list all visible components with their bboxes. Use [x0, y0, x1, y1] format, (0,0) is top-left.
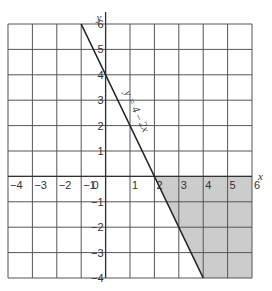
x-tick-label: −3	[34, 179, 47, 191]
y-tick-label: 6	[97, 18, 103, 30]
x-tick-label: −2	[59, 179, 72, 191]
x-tick-label: 3	[181, 179, 187, 191]
x-tick-label: 2	[156, 179, 162, 191]
y-tick-label: 5	[97, 43, 103, 55]
y-tick-label: 3	[97, 94, 103, 106]
y-tick-label: −2	[91, 221, 104, 233]
y-tick-label: −4	[91, 272, 104, 284]
x-tick-label: 0	[93, 179, 99, 191]
graph: xy y = 4 – 2x −4−3−2−10123456654321−1−2−…	[0, 0, 272, 291]
x-tick-label: 1	[132, 179, 138, 191]
y-tick-label: −3	[91, 247, 104, 259]
y-tick-label: 4	[97, 69, 103, 81]
x-tick-label: −4	[10, 179, 23, 191]
y-tick-label: 1	[97, 145, 103, 157]
y-tick-label: 2	[97, 120, 103, 132]
x-tick-label: 5	[230, 179, 236, 191]
y-tick-label: −1	[91, 196, 104, 208]
x-tick-label: 6	[254, 179, 260, 191]
line-equation-label: y = 4 – 2x	[122, 87, 153, 133]
x-tick-label: 4	[205, 179, 211, 191]
